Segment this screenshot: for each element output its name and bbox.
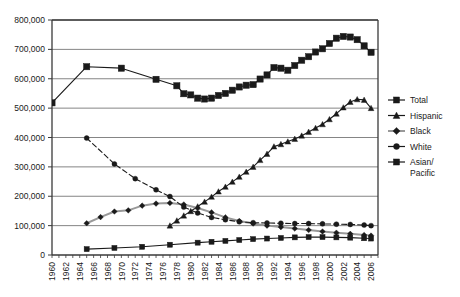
line-chart: 800,000700,000600,000500,000400,000300,0… [0, 0, 460, 297]
marker-square [209, 239, 214, 244]
marker-circle [154, 187, 159, 192]
y-tick-label: 0 [40, 250, 45, 260]
marker-square [319, 46, 325, 52]
x-tick-label: 1988 [241, 262, 251, 281]
marker-circle [292, 221, 297, 226]
marker-square [84, 247, 89, 252]
marker-square [153, 76, 159, 82]
x-tick-label: 2006 [366, 262, 376, 281]
marker-square [223, 238, 228, 243]
marker-square [354, 37, 360, 43]
legend-item-black[interactable]: Black [388, 126, 432, 136]
legend-label: White [410, 142, 432, 152]
marker-circle [334, 222, 339, 227]
marker-square [250, 82, 256, 88]
x-tick-label: 1970 [117, 262, 127, 281]
x-tick-label: 1974 [144, 262, 154, 281]
marker-square [215, 92, 221, 98]
legend-label: Asian/ [410, 157, 434, 167]
marker-square [243, 82, 249, 88]
chart-container: 800,000700,000600,000500,000400,000300,0… [0, 0, 460, 297]
marker-square [236, 84, 242, 90]
x-tick-label: 1964 [75, 262, 85, 281]
marker-circle [223, 217, 228, 222]
marker-square [271, 64, 277, 70]
legend-item-total[interactable]: Total [388, 95, 428, 105]
marker-square [320, 235, 325, 240]
marker-square [362, 236, 367, 241]
marker-circle [394, 144, 400, 150]
marker-circle [251, 220, 256, 225]
legend-label: Hispanic [410, 111, 443, 121]
x-tick-label: 1990 [255, 262, 265, 281]
x-tick-label: 1980 [186, 262, 196, 281]
x-tick-label: 1996 [297, 262, 307, 281]
x-tick-label: 1962 [61, 262, 71, 281]
marker-circle [112, 161, 117, 166]
y-tick-label: 500,000 [14, 103, 45, 113]
x-tick-label: 1978 [172, 262, 182, 281]
x-tick-label: 1998 [311, 262, 321, 281]
marker-circle [265, 220, 270, 225]
marker-square [264, 72, 270, 78]
marker-circle [320, 221, 325, 226]
marker-square [334, 235, 339, 240]
x-tick-label: 2002 [339, 262, 349, 281]
marker-circle [237, 219, 242, 224]
marker-circle [133, 176, 138, 181]
y-tick-label: 800,000 [14, 15, 45, 25]
marker-circle [362, 223, 367, 228]
x-tick-label: 1984 [214, 262, 224, 281]
legend-item-hispanic[interactable]: Hispanic [388, 111, 443, 121]
x-tick-label: 2004 [352, 262, 362, 281]
marker-square [257, 76, 263, 82]
marker-circle [181, 205, 186, 210]
legend-label: Total [410, 95, 428, 105]
marker-square [49, 100, 55, 106]
marker-square [361, 43, 367, 49]
marker-square [278, 235, 283, 240]
marker-circle [348, 222, 353, 227]
legend-item-asian-[interactable]: Asian/Pacific [388, 157, 436, 177]
y-tick-label: 400,000 [14, 133, 45, 143]
y-tick-label: 100,000 [14, 221, 45, 231]
marker-square [333, 35, 339, 41]
marker-square [306, 54, 312, 60]
marker-square [347, 34, 353, 40]
marker-square [140, 244, 145, 249]
x-tick-label: 1972 [130, 262, 140, 281]
marker-square [348, 235, 353, 240]
x-tick-label: 2000 [325, 262, 335, 281]
marker-circle [195, 210, 200, 215]
x-tick-label: 1976 [158, 262, 168, 281]
marker-square [188, 92, 194, 98]
marker-square [265, 236, 270, 241]
y-tick-label: 200,000 [14, 191, 45, 201]
marker-square [251, 237, 256, 242]
marker-square [326, 40, 332, 46]
x-tick-label: 1966 [89, 262, 99, 281]
marker-circle [84, 136, 89, 141]
marker-circle [167, 194, 172, 199]
marker-square [222, 90, 228, 96]
marker-square [278, 65, 284, 71]
legend-label-line2: Pacific [410, 168, 436, 178]
marker-square [201, 96, 207, 102]
marker-circle [369, 223, 374, 228]
x-tick-label: 1960 [47, 262, 57, 281]
marker-diamond [393, 127, 400, 134]
x-ticks: 1960196219641966196819701972197419761978… [47, 255, 378, 281]
marker-square [167, 242, 172, 247]
marker-square [394, 159, 400, 165]
x-tick-label: 1968 [103, 262, 113, 281]
marker-square [369, 236, 374, 241]
marker-square [299, 57, 305, 63]
legend-label: Black [410, 126, 432, 136]
y-tick-label: 300,000 [14, 162, 45, 172]
x-tick-label: 1994 [283, 262, 293, 281]
marker-square [306, 235, 311, 240]
marker-square [285, 67, 291, 73]
legend-item-white[interactable]: White [388, 142, 432, 152]
marker-square [181, 91, 187, 97]
marker-square [84, 64, 90, 70]
